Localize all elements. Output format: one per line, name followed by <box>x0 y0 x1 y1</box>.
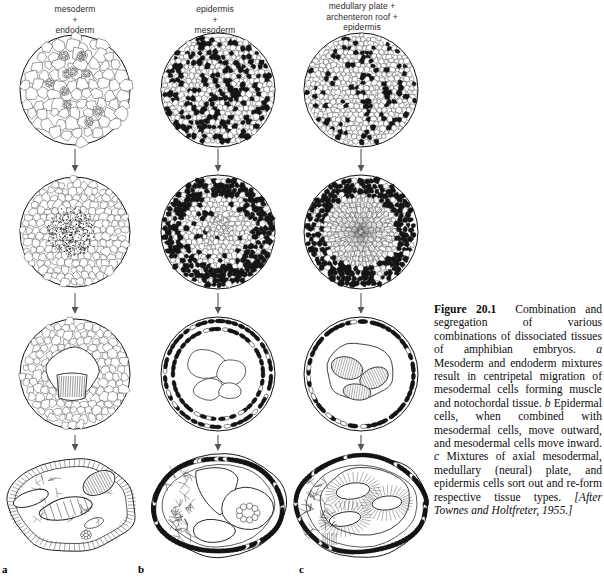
panel-label-a: a <box>2 563 8 575</box>
progression-arrow-col-c-1 <box>358 149 365 172</box>
progression-arrow-col-b-2 <box>215 293 222 314</box>
stage-a-row-3 <box>19 317 131 430</box>
caption-figure-number: Figure 20.1 <box>434 303 496 316</box>
progression-arrow-col-a-3 <box>72 435 79 451</box>
caption-marker-b: b <box>545 397 551 410</box>
stage-b-row-1 <box>160 33 275 147</box>
progression-arrow-col-b-3 <box>215 435 222 451</box>
stage-a-row-1 <box>19 32 133 148</box>
stage-c-row-3 <box>304 317 418 431</box>
stage-c-row-2 <box>304 175 418 289</box>
stage-a-row-2 <box>19 175 130 287</box>
stage-b-row-2 <box>161 175 276 289</box>
stage-b-row-4 <box>151 454 286 558</box>
stage-a-row-4 <box>7 459 136 552</box>
progression-arrow-col-c-3 <box>358 435 365 451</box>
stage-c-row-4 <box>294 453 429 558</box>
progression-arrow-col-b-1 <box>215 149 222 172</box>
stage-b-row-3 <box>161 317 275 431</box>
progression-arrow-col-c-2 <box>358 293 365 314</box>
caption-marker-c: c <box>434 450 439 463</box>
panel-label-b: b <box>138 563 144 575</box>
stage-c-row-1 <box>304 33 418 147</box>
figure-caption: Figure 20.1 Combination and segregation … <box>434 303 602 518</box>
progression-arrow-col-a-2 <box>72 293 79 314</box>
panel-label-c: c <box>299 563 304 575</box>
progression-arrow-col-a-1 <box>72 149 79 172</box>
figure-20-1: mesoderm + endoderm epidermis + mesoderm… <box>0 0 604 580</box>
caption-marker-a: a <box>596 343 602 356</box>
